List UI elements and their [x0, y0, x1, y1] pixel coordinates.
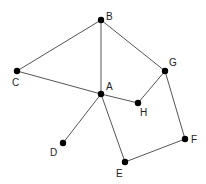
edge-e-a [101, 94, 125, 162]
node-label-e: E [116, 168, 123, 179]
graph-diagram: ABCDEFGH [0, 0, 206, 184]
edge-c-a [17, 71, 101, 94]
node-b [98, 17, 104, 23]
node-label-c: C [12, 77, 19, 88]
edge-a-h [101, 94, 138, 103]
node-label-f: F [191, 134, 197, 145]
node-h [135, 100, 141, 106]
node-label-h: H [140, 107, 147, 118]
edge-b-c [17, 20, 101, 71]
node-g [162, 68, 168, 74]
edge-f-e [125, 139, 185, 162]
node-e [122, 159, 128, 165]
node-c [14, 68, 20, 74]
node-label-d: D [50, 147, 57, 158]
node-a [98, 91, 104, 97]
node-label-b: B [106, 11, 113, 22]
edge-a-d [63, 94, 101, 143]
edge-b-g [101, 20, 165, 71]
node-f [182, 136, 188, 142]
edge-h-g [138, 71, 165, 103]
edge-g-f [165, 71, 185, 139]
node-label-a: A [106, 81, 113, 92]
node-label-g: G [169, 57, 177, 68]
node-d [60, 140, 66, 146]
